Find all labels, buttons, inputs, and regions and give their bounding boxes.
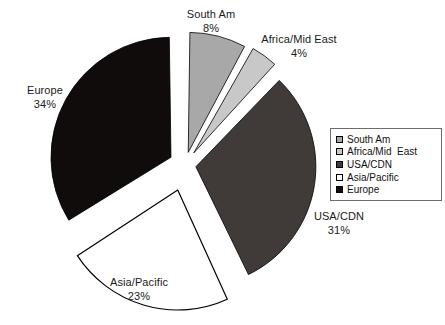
pie-slices-group bbox=[51, 32, 316, 310]
slice-label-africa-mid-east: Africa/Mid East 4% bbox=[240, 33, 358, 60]
pie-slice[interactable] bbox=[196, 80, 316, 274]
legend-item-label: Asia/Pacific bbox=[347, 172, 399, 183]
chart-legend: South AmAfrica/Mid EastUSA/CDNAsia/Pacif… bbox=[330, 128, 442, 201]
pie-slice[interactable] bbox=[51, 37, 171, 220]
pie-chart-figure: South Am 8% Africa/Mid East 4% Europe 34… bbox=[0, 0, 445, 325]
legend-swatch-icon bbox=[336, 186, 343, 193]
slice-label-asia-pacific-name: Asia/Pacific bbox=[82, 276, 196, 290]
legend-swatch-icon bbox=[336, 148, 343, 155]
legend-item[interactable]: USA/CDN bbox=[336, 158, 437, 171]
legend-item-label: Africa/Mid East bbox=[347, 146, 417, 157]
slice-label-europe-name: Europe bbox=[2, 84, 88, 98]
slice-label-asia-pacific-value: 23% bbox=[82, 290, 196, 304]
legend-item[interactable]: Europe bbox=[336, 183, 437, 196]
legend-swatch-icon bbox=[336, 161, 343, 168]
slice-label-usa-cdn-value: 31% bbox=[288, 224, 390, 238]
slice-label-south-am: South Am 8% bbox=[156, 8, 266, 35]
slice-label-europe-value: 34% bbox=[2, 98, 88, 112]
slice-label-usa-cdn: USA/CDN 31% bbox=[288, 210, 390, 237]
legend-item-label: South Am bbox=[347, 134, 390, 145]
legend-item-label: USA/CDN bbox=[347, 159, 392, 170]
legend-swatch-icon bbox=[336, 174, 343, 181]
legend-item[interactable]: South Am bbox=[336, 133, 437, 146]
slice-label-africa-mid-east-value: 4% bbox=[240, 47, 358, 61]
legend-item-label: Europe bbox=[347, 184, 379, 195]
legend-item[interactable]: Asia/Pacific bbox=[336, 171, 437, 184]
slice-label-usa-cdn-name: USA/CDN bbox=[288, 210, 390, 224]
legend-item[interactable]: Africa/Mid East bbox=[336, 146, 437, 159]
slice-label-south-am-name: South Am bbox=[156, 8, 266, 22]
slice-label-asia-pacific: Asia/Pacific 23% bbox=[82, 276, 196, 303]
legend-swatch-icon bbox=[336, 136, 343, 143]
slice-label-europe: Europe 34% bbox=[2, 84, 88, 111]
slice-label-africa-mid-east-name: Africa/Mid East bbox=[240, 33, 358, 47]
